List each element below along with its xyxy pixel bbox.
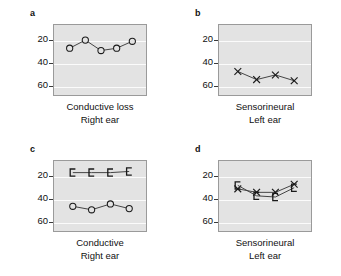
panel-a: a 20 40 60 Conductive loss Right ear [0, 0, 170, 136]
panel-c-tickmark-40 [49, 199, 53, 200]
panel-b-ytick-20: 20 [187, 34, 213, 44]
panel-a-tickmark-60 [49, 86, 53, 87]
panel-c-caption-line2: Right ear [40, 250, 160, 263]
panel-a-caption-line1: Conductive loss [40, 101, 160, 114]
panel-c-tickmark-20 [49, 176, 53, 177]
panel-b-tickmark-20 [214, 40, 218, 41]
panel-a-ytick-60: 60 [22, 80, 48, 90]
panel-a-tickmark-20 [49, 40, 53, 41]
panel-c-series-layer [54, 161, 147, 232]
panel-c-ytick-20: 20 [22, 170, 48, 180]
panel-c-caption: Conductive Right ear [40, 237, 160, 262]
panel-c-plot-area [53, 160, 147, 232]
panel-a-letter: a [30, 8, 35, 18]
panel-b-ytick-60: 60 [187, 80, 213, 90]
panel-b-caption: Sensorineural Left ear [205, 101, 325, 126]
panel-a-ytick-40: 40 [22, 57, 48, 67]
panel-d: d 20 40 60 Sensorineural Left ear [170, 136, 341, 276]
panel-d-ytick-20: 20 [187, 170, 213, 180]
panel-d-ytick-60: 60 [187, 216, 213, 226]
panel-a-tickmark-40 [49, 63, 53, 64]
panel-d-caption-line2: Left ear [205, 250, 325, 263]
panel-b-letter: b [195, 8, 201, 18]
panel-b: b 20 40 60 Sensorineural Left ear [170, 0, 341, 136]
panel-c: c 20 40 60 Conductive Right ear [0, 136, 170, 276]
panel-a-caption-line2: Right ear [40, 114, 160, 127]
panel-a-series-layer [54, 25, 147, 96]
panel-c-tickmark-60 [49, 222, 53, 223]
panel-d-plot-area [218, 160, 312, 232]
panel-b-tickmark-40 [214, 63, 218, 64]
audiogram-figure: a 20 40 60 Conductive loss Right ear b 2… [0, 0, 341, 276]
panel-d-caption-line1: Sensorineural [205, 237, 325, 250]
panel-d-tickmark-40 [214, 199, 218, 200]
panel-c-ytick-60: 60 [22, 216, 48, 226]
panel-b-tickmark-60 [214, 86, 218, 87]
panel-d-ytick-40: 40 [187, 193, 213, 203]
panel-d-tickmark-20 [214, 176, 218, 177]
panel-d-series-layer [219, 161, 312, 232]
panel-c-letter: c [30, 144, 35, 154]
panel-b-series-layer [219, 25, 312, 96]
panel-b-ytick-40: 40 [187, 57, 213, 67]
panel-c-ytick-40: 40 [22, 193, 48, 203]
panel-b-caption-line2: Left ear [205, 114, 325, 127]
panel-a-ytick-20: 20 [22, 34, 48, 44]
panel-a-plot-area [53, 24, 147, 96]
panel-d-caption: Sensorineural Left ear [205, 237, 325, 262]
panel-b-caption-line1: Sensorineural [205, 101, 325, 114]
panel-c-caption-line1: Conductive [40, 237, 160, 250]
panel-a-caption: Conductive loss Right ear [40, 101, 160, 126]
panel-b-plot-area [218, 24, 312, 96]
panel-d-tickmark-60 [214, 222, 218, 223]
panel-d-letter: d [195, 144, 201, 154]
